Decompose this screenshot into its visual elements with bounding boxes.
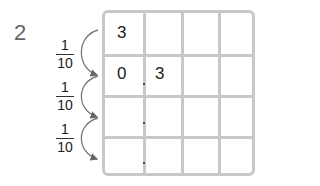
arrow-icon	[81, 76, 98, 117]
fraction-2: 1 10	[54, 80, 76, 113]
arrow-icon	[81, 30, 98, 75]
decimal-point	[143, 122, 145, 124]
decimal-point	[143, 83, 145, 85]
cell-r2c1: 0	[117, 64, 126, 84]
cell-r2c2: 3	[155, 64, 164, 84]
fraction-1: 1 10	[54, 38, 76, 71]
decimal-point	[143, 162, 145, 164]
fraction-3: 1 10	[54, 122, 76, 155]
arrow-icon	[81, 118, 98, 159]
cell-r1c1: 3	[117, 23, 126, 43]
place-value-grid: 3 0 3	[102, 10, 255, 176]
